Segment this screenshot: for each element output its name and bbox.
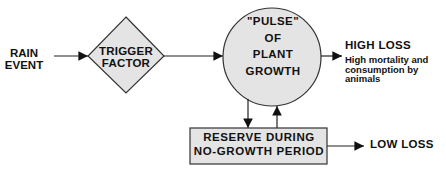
rain-event-label: RAIN EVENT (4, 47, 44, 71)
pulse-label-line2: OF (233, 30, 313, 47)
high-loss-title: HIGH LOSS (345, 39, 411, 51)
reserve-label-line2: NO-GROWTH PERIOD (192, 145, 326, 159)
rain-label-line1: RAIN (4, 47, 44, 59)
trigger-label-line2: FACTOR (94, 57, 158, 69)
pulse-label-line3: PLANT (233, 46, 313, 63)
pulse-label-line4: GROWTH (233, 63, 313, 80)
trigger-factor-label: TRIGGER FACTOR (94, 45, 158, 69)
high-loss-desc-line3: animals (345, 74, 428, 84)
reserve-label-line1: RESERVE DURING (192, 131, 326, 145)
trigger-label-line1: TRIGGER (94, 45, 158, 57)
high-loss-description: High mortality and consumption by animal… (345, 55, 428, 84)
rain-label-line2: EVENT (4, 59, 44, 71)
low-loss-title: LOW LOSS (370, 138, 434, 150)
pulse-label-line1: "PULSE" (233, 13, 313, 30)
reserve-label: RESERVE DURING NO-GROWTH PERIOD (192, 131, 326, 159)
pulse-label: "PULSE" OF PLANT GROWTH (233, 13, 313, 80)
